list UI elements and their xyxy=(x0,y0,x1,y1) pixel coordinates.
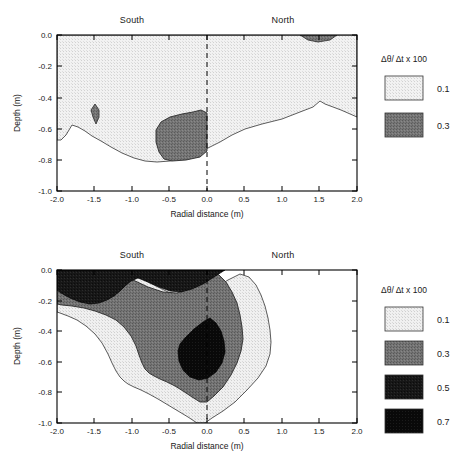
bottom-xtick-2: -1.0 xyxy=(125,427,139,436)
top-ytick-5: -1.0 xyxy=(38,187,52,196)
bottom-xtick-5: 0.5 xyxy=(238,427,250,436)
top-ytick-0: 0.0 xyxy=(41,31,53,40)
bottom-legend-swatch-0 xyxy=(385,307,423,331)
bottom-xtick-0: -2.0 xyxy=(50,427,64,436)
bottom-ytick-5: -1.0 xyxy=(38,419,52,428)
top-xtick-4: 0.0 xyxy=(201,195,213,204)
top-legend: Δθ/ Δt x 100 0.1 0.3 xyxy=(381,54,450,137)
top-ytick-1: -0.2 xyxy=(38,62,52,71)
bottom-legend-value-3: 0.7 xyxy=(437,417,450,427)
bottom-ytick-2: -0.4 xyxy=(38,327,52,336)
bottom-legend-title: Δθ/ Δt x 100 xyxy=(381,285,427,295)
top-xtick-8: 2.0 xyxy=(351,195,363,204)
bottom-xtick-4: 0.0 xyxy=(201,427,213,436)
bottom-legend-value-0: 0.1 xyxy=(437,315,450,325)
top-xtick-5: 0.5 xyxy=(238,195,250,204)
top-legend-value-1: 0.3 xyxy=(437,121,450,131)
bottom-heading-south: South xyxy=(120,250,145,260)
bottom-xtick-8: 2.0 xyxy=(351,427,363,436)
bottom-legend-value-2: 0.5 xyxy=(437,383,450,393)
bottom-xtick-7: 1.5 xyxy=(313,427,325,436)
figure-container: South North xyxy=(0,0,467,469)
top-xtick-0: -2.0 xyxy=(50,195,64,204)
top-legend-swatch-0 xyxy=(385,76,423,100)
bottom-ytick-0: 0.0 xyxy=(41,266,53,275)
top-xtick-6: 1.0 xyxy=(276,195,288,204)
top-xtick-3: -0.5 xyxy=(162,195,176,204)
bottom-ytick-1: -0.2 xyxy=(38,297,52,306)
top-xtick-7: 1.5 xyxy=(313,195,325,204)
bottom-legend: Δθ/ Δt x 100 0.1 0.3 0.5 0.7 xyxy=(381,285,450,433)
top-xtick-1: -1.5 xyxy=(87,195,101,204)
top-ytick-2: -0.4 xyxy=(38,94,52,103)
top-legend-swatch-1 xyxy=(385,113,423,137)
bottom-legend-swatch-3 xyxy=(385,409,423,433)
bottom-panel-plot: South North xyxy=(0,230,467,469)
bottom-ytick-4: -0.8 xyxy=(38,388,52,397)
top-legend-value-0: 0.1 xyxy=(437,84,450,94)
bottom-xtick-6: 1.0 xyxy=(276,427,288,436)
bottom-x-axis-title: Radial distance (m) xyxy=(170,441,243,451)
top-legend-title: Δθ/ Δt x 100 xyxy=(381,54,427,64)
bottom-legend-swatch-2 xyxy=(385,375,423,399)
bottom-legend-value-1: 0.3 xyxy=(437,349,450,359)
panel-bottom: South North xyxy=(0,230,467,469)
bottom-ytick-3: -0.6 xyxy=(38,358,52,367)
top-heading-south: South xyxy=(120,15,145,25)
bottom-legend-swatch-1 xyxy=(385,341,423,365)
top-heading-north: North xyxy=(271,15,294,25)
top-panel-plot: South North xyxy=(0,0,467,230)
panel-top: South North xyxy=(0,0,467,230)
top-x-axis-title: Radial distance (m) xyxy=(170,209,243,219)
top-xtick-2: -1.0 xyxy=(125,195,139,204)
bottom-heading-north: North xyxy=(271,250,294,260)
bottom-xtick-1: -1.5 xyxy=(87,427,101,436)
bottom-y-axis-title: Depth (m) xyxy=(12,327,22,365)
top-ytick-3: -0.6 xyxy=(38,125,52,134)
bottom-xtick-3: -0.5 xyxy=(162,427,176,436)
top-ytick-4: -0.8 xyxy=(38,156,52,165)
top-y-axis-title: Depth (m) xyxy=(12,94,22,132)
